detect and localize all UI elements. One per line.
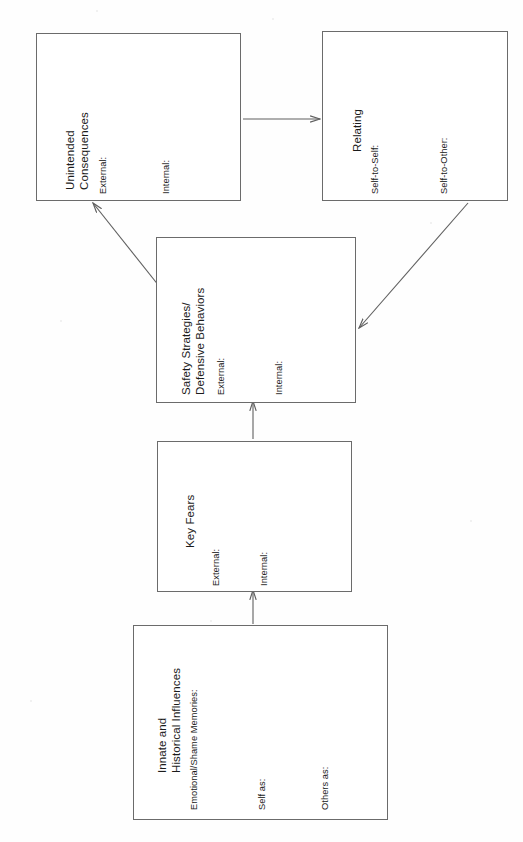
node-unintended-consequences-field-external: External: [98, 157, 109, 194]
edge-relating-to-safety [359, 203, 468, 328]
title-line-1: Relating [351, 109, 365, 152]
node-key-fears-title: Key Fears [184, 495, 198, 548]
node-relating-title: Relating [351, 109, 365, 152]
node-safety-strategies-field-internal: Internal: [274, 361, 285, 395]
node-innate-historical-influences-title: Innate and Historical Influences [155, 668, 184, 773]
title-line-1: Unintended [63, 112, 77, 190]
node-key-fears[interactable]: Key Fears External: Internal: [157, 441, 352, 592]
title-line-2: Defensive Behaviors [193, 288, 207, 395]
node-relating[interactable]: Relating Self-to-Self: Self-to-Other: [322, 31, 508, 201]
diagram-canvas: Unintended Consequences External: Intern… [0, 0, 523, 842]
title-line-2: Historical Influences [169, 668, 183, 773]
edge-safety-to-unintended [93, 203, 163, 291]
node-innate-field-emotional-shame-memories: Emotional/Shame Memories: [189, 689, 200, 810]
title-line-1: Innate and [155, 668, 169, 773]
node-innate-historical-influences[interactable]: Innate and Historical Influences Emotion… [133, 625, 388, 820]
node-innate-field-self-as: Self as: [257, 779, 268, 810]
title-line-1: Safety Strategies/ [179, 288, 193, 395]
title-line-1: Key Fears [184, 495, 198, 548]
node-safety-strategies[interactable]: Safety Strategies/ Defensive Behaviors E… [156, 237, 356, 403]
node-unintended-consequences-title: Unintended Consequences [63, 112, 92, 190]
title-line-2: Consequences [77, 112, 91, 190]
node-safety-strategies-title: Safety Strategies/ Defensive Behaviors [179, 288, 208, 395]
node-innate-field-others-as: Others as: [320, 767, 331, 810]
node-relating-field-self-to-self: Self-to-Self: [370, 145, 381, 194]
node-safety-strategies-field-external: External: [216, 358, 227, 395]
node-relating-field-self-to-other: Self-to-Other: [439, 138, 450, 195]
node-key-fears-field-external: External: [211, 549, 222, 586]
node-unintended-consequences-field-internal: Internal: [161, 160, 172, 194]
node-key-fears-field-internal: Internal: [259, 552, 270, 586]
node-unintended-consequences[interactable]: Unintended Consequences External: Intern… [36, 33, 241, 201]
